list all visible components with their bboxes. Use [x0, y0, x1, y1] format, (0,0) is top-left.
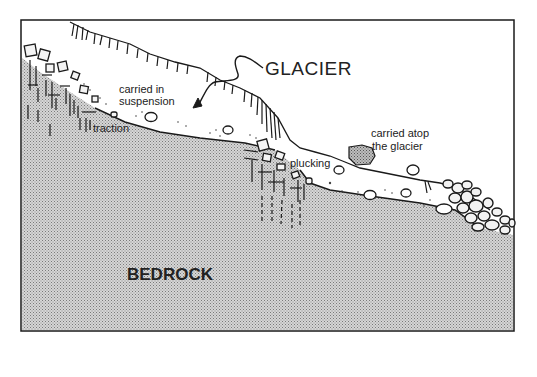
carried-in-suspension-label-1: carried in — [119, 84, 164, 95]
carried-in-suspension-label-2: suspension — [119, 96, 175, 107]
traction-label: traction — [93, 123, 129, 134]
plucking-label: plucking — [290, 158, 330, 169]
glacier-diagram — [0, 0, 537, 377]
carried-atop-label-1: carried atop — [371, 128, 429, 139]
carried-atop-label-2: the glacier — [372, 141, 423, 152]
bedrock-label: BEDROCK — [127, 266, 213, 283]
glacier-label: GLACIER — [265, 59, 352, 78]
